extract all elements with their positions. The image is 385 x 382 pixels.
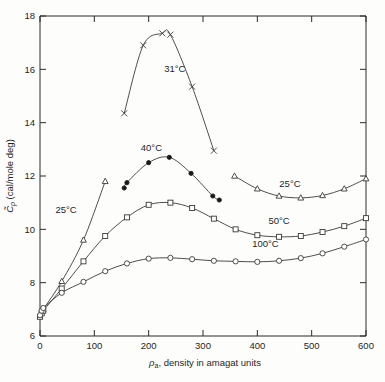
data-point-cross (167, 32, 173, 38)
y-tick-label: 8 (30, 277, 35, 288)
series-40-c (122, 155, 221, 202)
data-point-square (320, 230, 325, 235)
data-point-triangle (59, 278, 65, 283)
series-25-c-low (37, 178, 108, 318)
series-curve (40, 239, 366, 315)
data-point-cross (159, 30, 165, 36)
series-label-40-c: 40°C (141, 142, 162, 153)
series-curve (40, 181, 105, 316)
axes-group: 6810121416180100200300400500600 (24, 10, 374, 350)
data-point-square (342, 224, 347, 229)
data-point-filled-circle (122, 186, 126, 190)
data-point-filled-circle (217, 198, 221, 202)
data-point-circle (211, 258, 216, 263)
data-point-circle (342, 244, 347, 249)
series-group (37, 30, 369, 319)
data-point-triangle (81, 237, 87, 242)
data-point-triangle (232, 173, 238, 178)
data-point-circle (190, 257, 195, 262)
data-point-square (211, 216, 216, 221)
data-point-circle (146, 256, 151, 261)
x-tick-label: 300 (195, 340, 211, 351)
series-label-31-c: 31°C (164, 63, 185, 74)
data-point-cross (211, 148, 217, 154)
data-point-filled-circle (167, 155, 171, 159)
data-point-triangle (254, 186, 260, 191)
y-tick-label: 18 (24, 10, 35, 21)
data-point-circle (298, 256, 303, 261)
data-point-cross (121, 110, 127, 116)
data-point-filled-circle (211, 194, 215, 198)
y-tick-label: 12 (24, 170, 35, 181)
data-point-circle (59, 290, 64, 295)
data-point-circle (276, 258, 281, 263)
data-point-square (103, 234, 108, 239)
axis-titles-group: ρa, density in amagat unitsC̃p (cal/mole… (4, 139, 261, 369)
series-label-25-c-high: 25°C (279, 178, 300, 189)
data-point-circle (103, 269, 108, 274)
data-point-circle (233, 259, 238, 264)
y-tick-label: 16 (24, 64, 35, 75)
data-point-filled-circle (147, 161, 151, 165)
data-point-cross (189, 84, 195, 90)
data-point-circle (81, 279, 86, 284)
x-tick-label: 400 (249, 340, 265, 351)
data-point-square (124, 215, 129, 220)
data-point-square (168, 200, 173, 205)
chart-figure: 6810121416180100200300400500600 31°C40°C… (0, 0, 385, 382)
series-label-25-c-low: 25°C (55, 204, 76, 215)
data-point-filled-circle (189, 171, 193, 175)
data-point-circle (320, 251, 325, 256)
data-point-circle (363, 237, 368, 242)
data-point-square (364, 216, 369, 221)
x-axis-title: ρa, density in amagat units (148, 357, 261, 369)
data-point-square (190, 206, 195, 211)
data-point-square (146, 202, 151, 207)
series-31-c (121, 30, 217, 154)
y-tick-label: 10 (24, 224, 35, 235)
chart-plot-area: 6810121416180100200300400500600 31°C40°C… (0, 0, 385, 382)
x-tick-label: 100 (86, 340, 102, 351)
data-point-filled-circle (125, 181, 129, 185)
data-point-circle (255, 259, 260, 264)
y-axis-title-rest: (cal/mole deg) (4, 139, 15, 202)
data-point-circle (124, 261, 129, 266)
y-tick-label: 14 (24, 117, 35, 128)
series-labels-group: 31°C40°C25°C25°C50°C100°C (55, 63, 300, 249)
data-point-square (298, 234, 303, 239)
y-tick-label: 6 (30, 330, 35, 341)
series-label-100-c: 100°C (252, 238, 279, 249)
y-axis-title: C̃p (cal/mole deg) (4, 139, 17, 213)
series-curve (124, 157, 219, 200)
data-point-circle (168, 255, 173, 260)
axis-frame (40, 16, 366, 336)
data-point-cross (140, 42, 146, 48)
x-tick-label: 0 (37, 340, 42, 351)
series-100-c (37, 237, 368, 318)
series-curve (124, 30, 214, 151)
x-tick-label: 600 (358, 340, 374, 351)
data-point-square (233, 227, 238, 232)
x-axis-title-rest: , density in amagat units (158, 357, 261, 368)
data-point-circle (41, 305, 46, 310)
data-point-square (81, 259, 86, 264)
x-tick-label: 500 (304, 340, 320, 351)
x-tick-label: 200 (141, 340, 157, 351)
data-point-triangle (102, 178, 108, 183)
series-label-50-c: 50°C (268, 215, 289, 226)
